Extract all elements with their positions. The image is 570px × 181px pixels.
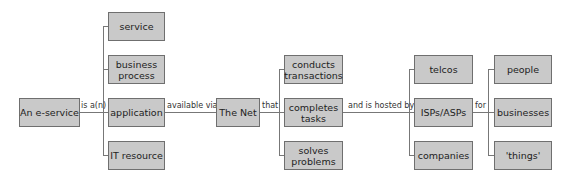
node-people: people bbox=[494, 55, 552, 84]
connector bbox=[343, 112, 414, 113]
node-things: 'things' bbox=[494, 141, 552, 170]
node-telcos: telcos bbox=[414, 55, 473, 84]
edge-label-is-a: is a(n) bbox=[81, 101, 106, 110]
edge-label-available-via: available via bbox=[167, 101, 218, 110]
node-service: service bbox=[108, 12, 165, 41]
connector bbox=[260, 112, 284, 113]
node-application: application bbox=[108, 98, 165, 127]
spine-4 bbox=[488, 69, 489, 156]
connector bbox=[165, 112, 216, 113]
edge-label-hosted-by: and is hosted by bbox=[348, 101, 414, 110]
connector bbox=[473, 112, 494, 113]
node-business-process: business process bbox=[108, 55, 165, 84]
node-conducts-transactions: conducts transactions bbox=[284, 55, 343, 84]
node-companies: companies bbox=[414, 141, 473, 170]
node-businesses: businesses bbox=[494, 98, 552, 127]
spine-1 bbox=[103, 26, 104, 156]
node-isps-asps: ISPs/ASPs bbox=[414, 98, 473, 127]
node-solves-problems: solves problems bbox=[284, 141, 343, 170]
edge-label-that: that bbox=[262, 101, 278, 110]
spine-3 bbox=[409, 69, 410, 156]
spine-2 bbox=[279, 69, 280, 156]
node-it-resource: IT resource bbox=[108, 141, 165, 170]
edge-label-for: for bbox=[475, 101, 486, 110]
node-e-service: An e-service bbox=[19, 98, 80, 127]
node-the-net: The Net bbox=[216, 98, 260, 127]
node-completes-tasks: completes tasks bbox=[284, 98, 343, 127]
